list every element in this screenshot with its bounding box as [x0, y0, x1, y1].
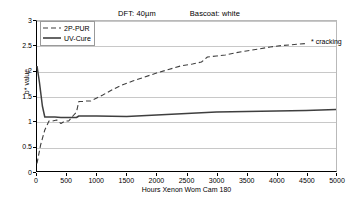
x-tick-label: 5000 — [323, 177, 351, 184]
legend-entry[interactable]: 2P-PUR — [43, 23, 91, 33]
legend-label: 2P-PUR — [64, 25, 90, 32]
x-tick-mark — [156, 173, 157, 176]
x-tick-label: 2500 — [173, 177, 201, 184]
legend-entry[interactable]: UV-Cure — [43, 33, 91, 43]
x-axis-title: Hours Xenon Wom Cam 180 — [36, 186, 337, 193]
series-line-2p-pur — [37, 44, 306, 164]
y-tick-label: 2.5 — [14, 42, 32, 49]
y-tick-mark — [33, 71, 36, 72]
x-tick-mark — [36, 173, 37, 176]
x-tick-label: 4000 — [263, 177, 291, 184]
x-tick-label: 3000 — [203, 177, 231, 184]
x-tick-label: 500 — [52, 177, 80, 184]
x-tick-label: 1500 — [112, 177, 140, 184]
cracking-annotation: * cracking — [311, 38, 342, 45]
y-axis-title: b* value — [23, 52, 30, 112]
x-tick-mark — [307, 173, 308, 176]
dft-label: DFT: 40µm — [118, 9, 156, 18]
x-tick-mark — [247, 173, 248, 176]
x-tick-mark — [126, 173, 127, 176]
y-tick-mark — [33, 45, 36, 46]
y-tick-label: 0.5 — [14, 143, 32, 150]
chart-legend: 2P-PURUV-Cure — [40, 21, 95, 46]
y-tick-mark — [33, 20, 36, 21]
basecoat-label: Bascoat: white — [190, 9, 240, 18]
x-tick-label: 1000 — [82, 177, 110, 184]
y-tick-mark — [33, 147, 36, 148]
x-tick-mark — [96, 173, 97, 176]
y-tick-mark — [33, 121, 36, 122]
x-tick-mark — [277, 173, 278, 176]
legend-line-swatch — [43, 35, 61, 41]
x-tick-mark — [187, 173, 188, 176]
y-tick-mark — [33, 96, 36, 97]
legend-line-swatch — [43, 25, 61, 31]
x-tick-mark — [217, 173, 218, 176]
y-tick-label: 0 — [14, 169, 32, 176]
x-tick-mark — [66, 173, 67, 176]
chart-subtitle-row: DFT: 40µm Bascoat: white — [0, 6, 358, 20]
legend-label: UV-Cure — [64, 35, 91, 42]
chart-container: DFT: 40µm Bascoat: white 00.511.522.5305… — [0, 0, 358, 205]
x-tick-label: 4500 — [293, 177, 321, 184]
y-tick-label: 1 — [14, 118, 32, 125]
x-tick-label: 2000 — [142, 177, 170, 184]
y-tick-label: 3 — [14, 17, 32, 24]
x-tick-label: 0 — [22, 177, 50, 184]
x-tick-label: 3500 — [233, 177, 261, 184]
series-line-uv-cure — [37, 66, 336, 118]
x-tick-mark — [336, 173, 337, 176]
